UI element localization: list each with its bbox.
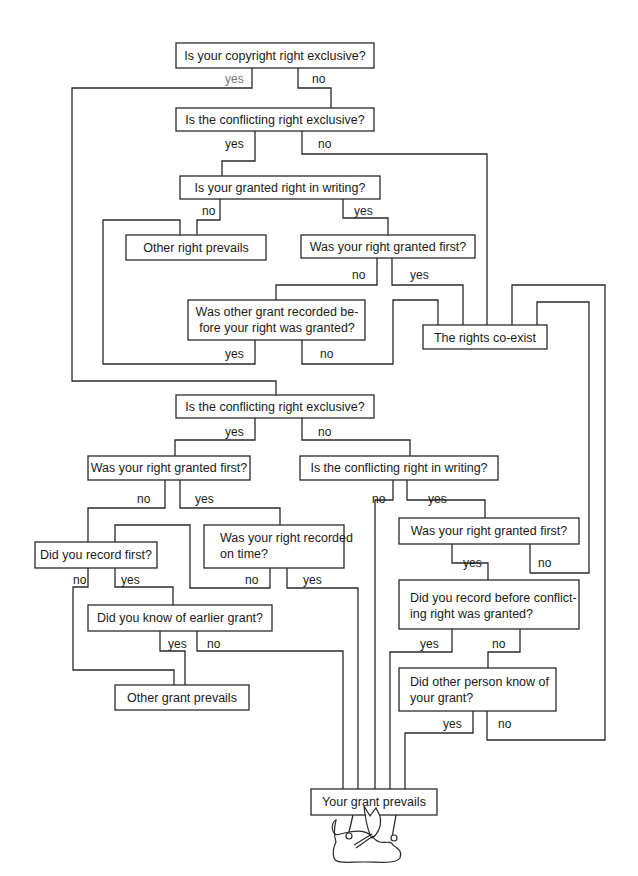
label-q3-no: no xyxy=(202,204,216,218)
node-text: Other right prevails xyxy=(143,241,249,255)
node-text: Your grant prevails xyxy=(322,795,426,809)
label-q13-no: no xyxy=(492,637,506,651)
label-q9-no: no xyxy=(73,573,87,587)
node-q12: Did you know of earlier grant? xyxy=(88,605,272,631)
label-q4-yes: yes xyxy=(410,268,429,282)
label-q4-no: no xyxy=(352,268,366,282)
node-text: your grant? xyxy=(410,691,473,705)
node-text: Did you record before conflict- xyxy=(410,591,577,605)
node-text: Did you record first? xyxy=(40,548,152,562)
label-q8-no: no xyxy=(372,492,386,506)
node-q9: Did you record first? xyxy=(35,542,157,568)
node-q5: Was other grant recorded be- fore your r… xyxy=(188,300,365,340)
label-q10-no: no xyxy=(245,573,259,587)
node-q8: Is the conflicting right in writing? xyxy=(300,456,498,480)
label-q9-yes: yes xyxy=(121,573,140,587)
node-q4: Was your right granted first? xyxy=(301,235,475,258)
node-text: The rights co-exist xyxy=(434,331,537,345)
node-q11: Was your right granted first? xyxy=(399,518,579,544)
label-q8-yes: yes xyxy=(428,492,447,506)
node-q7: Was your right granted first? xyxy=(88,456,250,480)
node-rights-coexist: The rights co-exist xyxy=(423,325,547,349)
label-q10-yes: yes xyxy=(303,573,322,587)
label-q1-no: no xyxy=(312,72,326,86)
node-text: Was your right granted first? xyxy=(310,240,467,254)
node-text: ing right was granted? xyxy=(410,607,533,621)
node-text: Other grant prevails xyxy=(127,691,237,705)
node-other-right-prevails: Other right prevails xyxy=(126,235,266,260)
node-text: Is your granted right in writing? xyxy=(195,181,366,195)
node-other-grant-prevails: Other grant prevails xyxy=(115,685,249,710)
label-q6-no: no xyxy=(318,425,332,439)
node-text: Is the conflicting right exclusive? xyxy=(185,400,364,414)
label-q14-yes: yes xyxy=(443,717,462,731)
node-text: fore your right was granted? xyxy=(199,321,355,335)
label-q3-yes: yes xyxy=(354,204,373,218)
node-q6: Is the conflicting right exclusive? xyxy=(176,395,374,418)
label-q11-no: no xyxy=(538,556,552,570)
copyright-conflict-flowchart: Is your copyright right exclusive? Is th… xyxy=(0,0,638,876)
node-q13: Did you record before conflict- ing righ… xyxy=(399,580,579,629)
node-text: Is your copyright right exclusive? xyxy=(184,49,365,63)
label-q12-no: no xyxy=(207,637,221,651)
node-q14: Did other person know of your grant? xyxy=(399,668,556,711)
label-q11-yes: yes xyxy=(463,556,482,570)
node-text: Is the conflicting right in writing? xyxy=(310,461,487,475)
node-text: Is the conflicting right exclusive? xyxy=(185,113,364,127)
node-text: Was other grant recorded be- xyxy=(196,305,359,319)
label-q2-yes: yes xyxy=(225,137,244,151)
node-q2: Is the conflicting right exclusive? xyxy=(176,108,374,131)
label-q12-yes: yes xyxy=(168,637,187,651)
label-q5-no: no xyxy=(320,347,334,361)
label-q13-yes: yes xyxy=(420,637,439,651)
label-q1-yes: yes xyxy=(225,72,244,86)
label-q7-yes: yes xyxy=(195,492,214,506)
node-text: Was your right granted first? xyxy=(411,524,568,538)
label-q2-no: no xyxy=(318,137,332,151)
label-q5-yes: yes xyxy=(225,347,244,361)
node-q3: Is your granted right in writing? xyxy=(180,176,380,199)
node-text: Was your right granted first? xyxy=(91,461,248,475)
node-text: Did other person know of xyxy=(410,675,549,689)
node-text: Was your right recorded xyxy=(220,531,353,545)
label-q7-no: no xyxy=(137,492,151,506)
node-text: Did you know of earlier grant? xyxy=(97,611,263,625)
node-q1: Is your copyright right exclusive? xyxy=(176,43,374,68)
node-text: on time? xyxy=(220,547,268,561)
node-q10: Was your right recorded on time? xyxy=(204,525,353,568)
label-q14-no: no xyxy=(498,717,512,731)
label-q6-yes: yes xyxy=(225,425,244,439)
